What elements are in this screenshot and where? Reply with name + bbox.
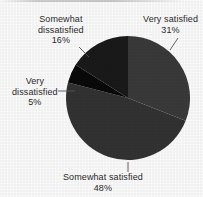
pie-label-very-satisfied: Very satisfied 31% (143, 14, 198, 35)
pie-label-somewhat-dissatisfied: Somewhat dissatisfied 16% (38, 14, 84, 46)
pie-label-somewhat-satisfied-percent: 48% (63, 183, 143, 194)
leader-line-very-satisfied (170, 38, 178, 50)
pie-label-somewhat-dissatisfied-name-line1: Somewhat (38, 14, 84, 25)
pie-chart-figure: Very satisfied 31% Somewhat dissatisfied… (0, 0, 203, 197)
pie-label-very-dissatisfied-name-line1: Very (12, 76, 58, 87)
pie-label-somewhat-satisfied: Somewhat satisfied 48% (63, 172, 143, 193)
pie-label-very-satisfied-percent: 31% (143, 25, 198, 36)
pie-label-very-dissatisfied-name-line2: dissatisfied (12, 87, 58, 98)
pie-label-somewhat-satisfied-name: Somewhat satisfied (63, 172, 143, 183)
pie-label-somewhat-dissatisfied-percent: 16% (38, 35, 84, 46)
pie-label-very-dissatisfied-percent: 5% (12, 97, 58, 108)
pie-label-somewhat-dissatisfied-name-line2: dissatisfied (38, 25, 84, 36)
pie-label-very-dissatisfied: Very dissatisfied 5% (12, 76, 58, 108)
pie-label-very-satisfied-name: Very satisfied (143, 14, 198, 25)
